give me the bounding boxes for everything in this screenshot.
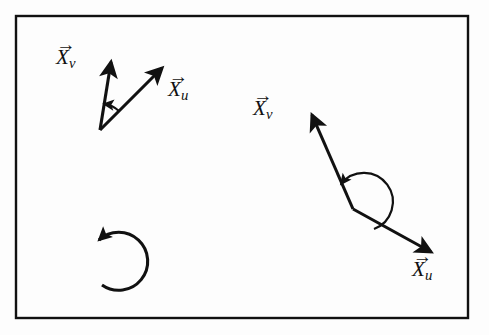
- figure-border: [16, 16, 468, 318]
- vector-arrow-icon: →: [169, 67, 188, 86]
- orientation-circle-arc: [99, 232, 148, 290]
- vector-arrow-icon: →: [253, 86, 272, 105]
- vector-arrow-icon: →: [413, 247, 432, 266]
- label-right-xv: X→v: [253, 98, 273, 122]
- label-left-xv-subscript: v: [69, 55, 76, 71]
- label-right-xv-subscript: v: [266, 106, 273, 122]
- left-vector-pair: [100, 62, 162, 130]
- vector-orientation-figure: X→v X→u X→v X→u: [0, 0, 489, 335]
- label-right-xu: X→u: [412, 259, 432, 283]
- right-vector-pair: [312, 115, 431, 252]
- label-left-xu: X→u: [168, 79, 188, 103]
- vector-arrow-icon: →: [56, 35, 75, 54]
- label-right-xu-subscript: u: [425, 267, 432, 283]
- label-left-xv: X→v: [56, 47, 76, 71]
- left-angle-arc: [104, 104, 119, 111]
- orientation-circle: [99, 232, 148, 290]
- vector-right-xv-shaft: [312, 115, 353, 209]
- label-left-xu-subscript: u: [181, 87, 188, 103]
